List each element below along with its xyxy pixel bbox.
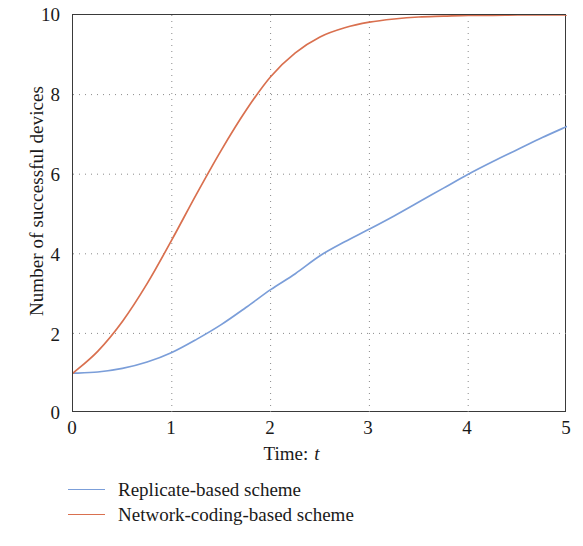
x-tick-label-4: 4 [447,418,487,437]
x-tick-label-0: 0 [52,418,92,437]
plot-area [72,14,566,412]
x-tick-label-5: 5 [546,418,583,437]
legend: Replicate-based scheme Network-coding-ba… [68,477,354,527]
x-axis-title: Time:t [0,443,583,465]
x-axis-title-variable: t [314,443,319,464]
x-tick-label-1: 1 [151,418,191,437]
series-line-network-coding-based-scheme [73,15,567,373]
y-tick-label-8: 8 [0,85,60,104]
y-tick-label-6: 6 [0,165,60,184]
y-tick-label-2: 2 [0,325,60,344]
legend-item-network-coding-based-scheme[interactable]: Network-coding-based scheme [68,502,354,527]
plot-canvas [73,15,567,413]
chart-figure: Number of successful devices 10 8 6 4 2 … [0,0,583,546]
series-line-replicate-based-scheme [73,126,567,373]
legend-item-replicate-based-scheme[interactable]: Replicate-based scheme [68,477,354,502]
legend-color-swatch-blue [68,489,105,490]
series-lines [73,15,567,373]
y-tick-label-0: 0 [0,403,60,422]
y-tick-label-10: 10 [0,5,60,24]
legend-color-swatch-red [68,514,105,515]
legend-label-network-coding-based-scheme: Network-coding-based scheme [118,505,354,524]
grid-lines [73,15,567,413]
x-tick-label-3: 3 [348,418,388,437]
x-tick-label-2: 2 [250,418,290,437]
y-tick-label-4: 4 [0,245,60,264]
legend-label-replicate-based-scheme: Replicate-based scheme [118,480,301,499]
x-axis-title-prefix: Time: [263,443,308,464]
